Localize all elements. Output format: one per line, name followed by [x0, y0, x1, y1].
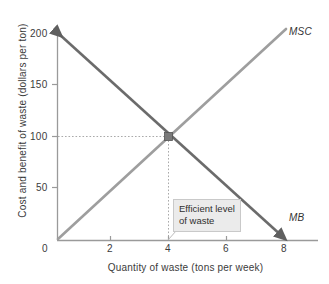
annotation-line-1: Efficient level [179, 203, 235, 215]
y-tick-label-0: 0 [42, 243, 48, 254]
efficient-level-annotation: Efficient level of waste [173, 199, 241, 232]
x-axis-title: Quantity of waste (tons per week) [0, 262, 329, 273]
annotation-pointer [169, 231, 177, 240]
mb-curve-label: MB [289, 212, 304, 223]
economics-chart-figure: 200 150 100 50 0 2 4 6 8 Cost and benefi… [0, 0, 329, 284]
equilibrium-marker [165, 133, 173, 141]
y-tick-label-50: 50 [36, 182, 48, 193]
x-tick-label-6: 6 [223, 243, 229, 254]
y-axis-title: Cost and benefit of waste (dollars per t… [10, 0, 34, 240]
chart-plot-area [0, 0, 329, 284]
x-tick-label-4: 4 [165, 243, 171, 254]
x-tick-label-2: 2 [107, 243, 113, 254]
y-axis-title-text: Cost and benefit of waste (dollars per t… [17, 23, 28, 217]
msc-curve-label: MSC [289, 26, 312, 37]
x-tick-label-8: 8 [281, 243, 287, 254]
annotation-line-2: of waste [179, 215, 235, 227]
